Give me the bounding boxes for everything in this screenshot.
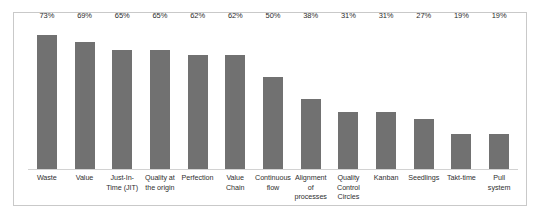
category-label: Pull system <box>480 173 518 211</box>
bar-group: 19% <box>480 22 518 169</box>
bar: 19% <box>489 134 509 169</box>
bar-group: 50% <box>254 22 292 169</box>
x-axis-line <box>28 169 518 170</box>
bar-value-label: 50% <box>266 11 281 20</box>
bar: 62% <box>225 55 245 169</box>
bar-group: 65% <box>103 22 141 169</box>
bar: 69% <box>75 42 95 169</box>
bar-value-label: 19% <box>454 11 469 20</box>
bar-value-label: 38% <box>303 11 318 20</box>
category-label: Seedlings <box>405 173 443 211</box>
bar-group: 69% <box>66 22 104 169</box>
bar-value-label: 27% <box>416 11 431 20</box>
bar: 62% <box>188 55 208 169</box>
bar-value-label: 62% <box>190 11 205 20</box>
bar-series: 73%69%65%65%62%62%50%38%31%31%27%19%19% <box>28 22 518 169</box>
bar-value-label: 19% <box>492 11 507 20</box>
bar-value-label: 69% <box>77 11 92 20</box>
bar-group: 65% <box>141 22 179 169</box>
category-label: Kanban <box>367 173 405 211</box>
category-label: Takt-time <box>443 173 481 211</box>
bar: 65% <box>112 50 132 169</box>
bar: 19% <box>451 134 471 169</box>
bar-value-label: 73% <box>39 11 54 20</box>
bar: 50% <box>263 77 283 169</box>
bar-group: 62% <box>179 22 217 169</box>
bar: 65% <box>150 50 170 169</box>
bar: 38% <box>301 99 321 169</box>
category-label: Alignment of processes <box>292 173 330 211</box>
bar: 27% <box>414 119 434 169</box>
chart-frame: 73%69%65%65%62%62%50%38%31%31%27%19%19% … <box>13 12 527 206</box>
bar-value-label: 65% <box>115 11 130 20</box>
bar: 73% <box>37 35 57 169</box>
bar-value-label: 62% <box>228 11 243 20</box>
bar-group: 19% <box>443 22 481 169</box>
category-label: Just-In-Time (JIT) <box>103 173 141 211</box>
bar-group: 31% <box>330 22 368 169</box>
bar-chart: 73%69%65%65%62%62%50%38%31%31%27%19%19% … <box>0 0 540 220</box>
x-axis-category-labels: WasteValueJust-In-Time (JIT)Quality at t… <box>28 173 518 211</box>
bar-value-label: 31% <box>379 11 394 20</box>
category-label: Continuous flow <box>254 173 292 211</box>
bar-group: 38% <box>292 22 330 169</box>
bar-group: 27% <box>405 22 443 169</box>
category-label: Value <box>66 173 104 211</box>
category-label: Waste <box>28 173 66 211</box>
category-label: Perfection <box>179 173 217 211</box>
bar-group: 73% <box>28 22 66 169</box>
bar-value-label: 31% <box>341 11 356 20</box>
category-label: Quality at the origin <box>141 173 179 211</box>
bar-value-label: 65% <box>153 11 168 20</box>
category-label: Value Chain <box>216 173 254 211</box>
bar-group: 31% <box>367 22 405 169</box>
bar-group: 62% <box>216 22 254 169</box>
category-label: Quality Control Circles <box>330 173 368 211</box>
bar: 31% <box>338 112 358 169</box>
bar: 31% <box>376 112 396 169</box>
plot-area: 73%69%65%65%62%62%50%38%31%31%27%19%19% <box>28 22 518 170</box>
